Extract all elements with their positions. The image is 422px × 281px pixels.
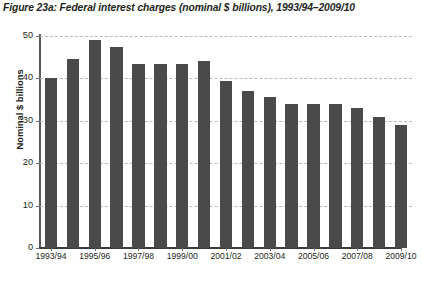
bar bbox=[220, 81, 232, 248]
y-axis-tick bbox=[36, 163, 40, 164]
bar bbox=[154, 64, 166, 248]
y-axis-tick bbox=[36, 248, 40, 249]
figure-container: Figure 23a: Federal interest charges (no… bbox=[0, 0, 422, 281]
bar bbox=[242, 91, 254, 248]
bar bbox=[329, 104, 341, 248]
y-axis-tick bbox=[36, 36, 40, 37]
bar bbox=[264, 97, 276, 248]
gridline bbox=[40, 36, 412, 37]
y-axis-tick bbox=[36, 78, 40, 79]
plot-area bbox=[40, 36, 412, 248]
bar bbox=[67, 59, 79, 248]
x-axis-tick-label: 2009/10 bbox=[379, 252, 422, 261]
y-axis-tick bbox=[36, 121, 40, 122]
x-axis-tick-label: 1999/00 bbox=[160, 252, 204, 261]
x-axis-tick-label: 2001/02 bbox=[204, 252, 248, 261]
bar bbox=[285, 104, 297, 248]
figure-title: Figure 23a: Federal interest charges (no… bbox=[3, 2, 421, 13]
y-axis-tick-label: 10 bbox=[7, 201, 33, 210]
x-axis-tick-label: 2003/04 bbox=[248, 252, 292, 261]
bar bbox=[351, 108, 363, 248]
y-axis-title: Nominal $ billions bbox=[14, 35, 25, 185]
bar bbox=[89, 40, 101, 248]
bar bbox=[395, 125, 407, 248]
x-axis-tick-label: 2007/08 bbox=[335, 252, 379, 261]
x-axis-tick-label: 1997/98 bbox=[116, 252, 160, 261]
x-axis-tick-label: 1995/96 bbox=[73, 252, 117, 261]
bar bbox=[373, 117, 385, 248]
bar bbox=[132, 64, 144, 248]
bar bbox=[176, 64, 188, 248]
bar bbox=[307, 104, 319, 248]
x-axis-tick-label: 1993/94 bbox=[29, 252, 73, 261]
bar bbox=[110, 47, 122, 248]
bar bbox=[45, 78, 57, 248]
x-axis-tick-label: 2005/06 bbox=[292, 252, 336, 261]
y-axis-tick bbox=[36, 206, 40, 207]
x-axis-tick-labels: 1993/941995/961997/981999/002001/022003/… bbox=[40, 252, 412, 266]
bar bbox=[198, 61, 210, 248]
y-axis-tick-label: 0 bbox=[7, 243, 33, 252]
